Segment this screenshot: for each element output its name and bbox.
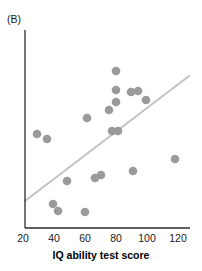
data-point [112,86,121,95]
data-point [63,177,72,186]
x-tick-label-80: 80 [110,232,122,244]
data-point [81,208,90,217]
x-tick-label-40: 40 [48,232,60,244]
data-point [54,207,63,216]
data-point [112,67,121,76]
data-point [43,135,52,144]
x-tick-label-100: 100 [138,232,156,244]
data-point [134,87,143,96]
data-point-group [33,67,180,217]
data-point [142,96,151,105]
data-point [171,155,180,164]
data-point [114,127,123,136]
data-point [97,171,106,180]
data-point [33,130,42,139]
x-tick-label-20: 20 [17,232,29,244]
data-point [129,167,138,176]
x-tick-label-60: 60 [79,232,91,244]
x-axis-title: IQ ability test score [0,249,202,261]
data-point [49,200,58,209]
data-point [112,98,121,107]
data-point [105,106,114,115]
x-tick-label-120: 120 [169,232,187,244]
scatter-plot-figure: (B) [0,0,202,271]
data-point [83,114,92,123]
plot-canvas [0,0,202,271]
